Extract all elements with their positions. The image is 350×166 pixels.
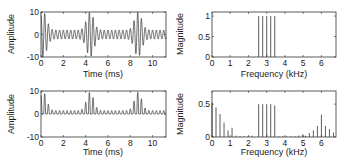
y-tick-label: 0.5	[198, 32, 210, 42]
y-tick-label: 10	[30, 86, 40, 96]
y-tick-label: 1	[205, 11, 210, 21]
x-tick-label: 8	[128, 138, 133, 148]
x-tick-label: 8	[128, 58, 133, 68]
x-tick-label: 5	[301, 58, 306, 68]
y-tick-label: 0	[34, 30, 39, 40]
x-tick-label: 2	[61, 58, 66, 68]
y-tick-label: -10	[27, 132, 40, 142]
x-tick-label: 10	[148, 138, 158, 148]
x-tick-label: 2	[61, 138, 66, 148]
x-tick-label: 3	[264, 58, 269, 68]
x-tick-label: 4	[83, 58, 88, 68]
x-tick-label: 1	[228, 58, 233, 68]
x-tick-label: 0	[210, 138, 215, 148]
xlabel-frequency-top: Frequency (kHz)	[241, 69, 308, 79]
x-tick-label: 0	[210, 58, 215, 68]
subplot-spectrum: 012345600.51	[198, 11, 336, 68]
x-tick-label: 2	[246, 58, 251, 68]
x-tick-label: 1	[228, 138, 233, 148]
ylabel-amplitude-bottom: Amplitude	[6, 94, 16, 134]
x-tick-label: 0	[39, 138, 44, 148]
y-tick-label: -10	[27, 52, 40, 62]
y-tick-label: 0.5	[198, 99, 210, 109]
xlabel-time-top: Time (ms)	[83, 69, 123, 79]
ylabel-amplitude-top: Amplitude	[6, 14, 16, 54]
x-tick-label: 4	[283, 58, 288, 68]
x-tick-label: 10	[148, 58, 158, 68]
ylabel-magnitude-bottom: Magnitude	[175, 93, 185, 135]
xlabel-frequency-bottom: Frequency (kHz)	[241, 147, 308, 157]
x-tick-label: 0	[39, 58, 44, 68]
ylabel-magnitude-top: Magnitude	[175, 13, 185, 55]
figure: 0246810-10010 Amplitude Time (ms) 012345…	[0, 0, 350, 166]
subplot-time-signal: 0246810-10010	[27, 7, 166, 68]
y-tick-label: 10	[30, 7, 40, 17]
x-tick-label: 6	[319, 138, 324, 148]
subplot-rectified-signal: 0246810-10010	[27, 86, 166, 148]
subplot-rectified-spectrum: 012345600.5	[198, 91, 336, 148]
y-tick-label: 0	[205, 52, 210, 62]
x-tick-label: 6	[319, 58, 324, 68]
x-tick-label: 6	[106, 58, 111, 68]
y-tick-label: 0	[205, 132, 210, 142]
y-tick-label: 0	[34, 109, 39, 119]
xlabel-time-bottom: Time (ms)	[83, 147, 123, 157]
axes-box	[212, 12, 336, 57]
